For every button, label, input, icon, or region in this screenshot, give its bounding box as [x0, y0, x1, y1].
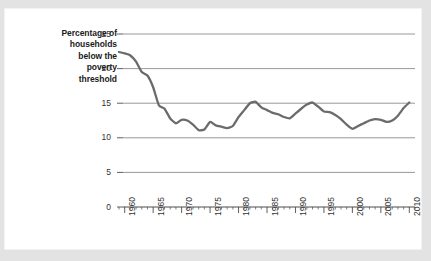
- y-axis-ticks: [117, 34, 123, 207]
- plot-canvas: [5, 9, 421, 249]
- gridlines: [123, 34, 415, 172]
- x-axis-ticks: [119, 207, 415, 213]
- data-series-line: [119, 52, 409, 130]
- chart-area: Percentage of households below the pover…: [5, 9, 421, 249]
- figure-panel: Percentage of households below the pover…: [5, 9, 421, 249]
